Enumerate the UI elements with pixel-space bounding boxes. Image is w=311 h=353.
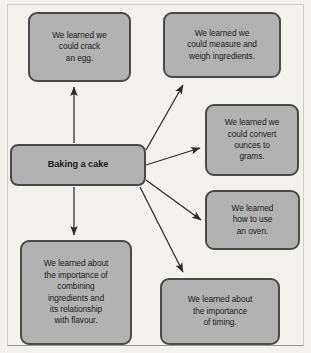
line: how to use	[232, 214, 274, 225]
line: could measure and	[187, 39, 257, 50]
node-measure-and-weigh[interactable]: We learned we could measure and weigh in…	[163, 12, 281, 78]
line: could crack	[52, 41, 107, 52]
node-combining-ingredients-flavour-text: We learned about the importance of combi…	[44, 258, 109, 326]
line: We learned we	[187, 28, 257, 39]
node-how-to-use-an-oven-text: We learned how to use an oven.	[232, 203, 274, 237]
node-measure-and-weigh-text: We learned we could measure and weigh in…	[187, 28, 257, 62]
line: We learned we	[225, 117, 280, 128]
line: the importance of	[44, 270, 109, 281]
line: with flavour.	[44, 315, 109, 326]
line: an oven.	[232, 226, 274, 237]
center-node-baking-a-cake[interactable]: Baking a cake	[10, 144, 146, 186]
node-how-to-use-an-oven[interactable]: We learned how to use an oven.	[205, 190, 300, 250]
node-importance-of-timing[interactable]: We learned about the importance of timin…	[160, 278, 280, 345]
center-node-label: Baking a cake	[48, 159, 109, 170]
node-crack-an-egg[interactable]: We learned we could crack an egg.	[28, 12, 131, 82]
line: We learned	[232, 203, 274, 214]
line: We learned about	[44, 258, 109, 269]
node-convert-ounces-to-grams[interactable]: We learned we could convert ounces to gr…	[205, 104, 299, 176]
mind-map-diagram: Baking a cake We learned we could crack …	[0, 0, 311, 353]
line: We learned we	[52, 30, 107, 41]
node-importance-of-timing-text: We learned about the importance of timin…	[188, 294, 253, 328]
line: ingredients and	[44, 293, 109, 304]
line: its relationship	[44, 304, 109, 315]
line: We learned about	[188, 294, 253, 305]
node-convert-ounces-to-grams-text: We learned we could convert ounces to gr…	[225, 117, 280, 163]
node-combining-ingredients-flavour[interactable]: We learned about the importance of combi…	[20, 240, 132, 345]
line: ounces to	[225, 140, 280, 151]
arrow-to-convert-ounces-to-grams	[146, 148, 200, 165]
line: could convert	[225, 129, 280, 140]
line: of timing.	[188, 317, 253, 328]
line: the importance	[188, 306, 253, 317]
line: combining	[44, 281, 109, 292]
arrow-to-importance-of-timing	[140, 187, 183, 272]
line: grams.	[225, 151, 280, 162]
arrow-to-measure-and-weigh	[146, 85, 183, 150]
line: weigh ingredients.	[187, 51, 257, 62]
node-crack-an-egg-text: We learned we could crack an egg.	[52, 30, 107, 64]
line: an egg.	[52, 53, 107, 64]
